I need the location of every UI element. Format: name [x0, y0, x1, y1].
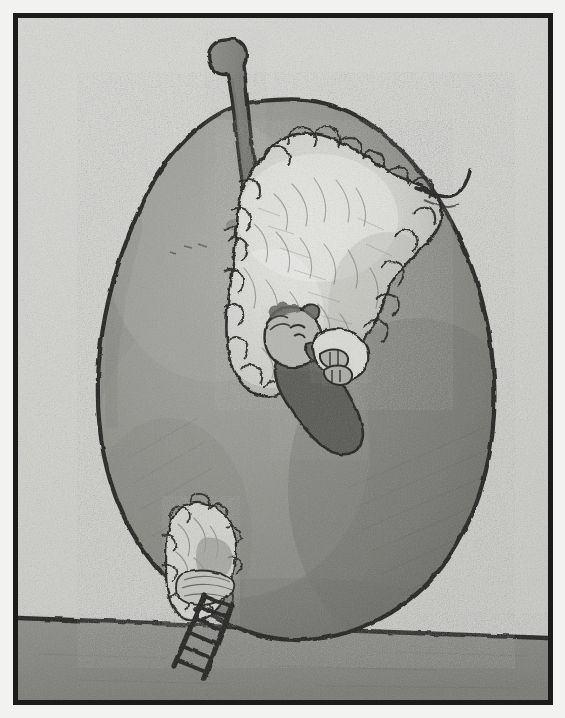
artwork-canvas	[18, 18, 548, 700]
pear-illustration-svg	[18, 18, 548, 700]
picture-frame	[13, 13, 553, 705]
illustration-scene: Giant Pear with Bite Marks A monumental …	[0, 0, 565, 718]
